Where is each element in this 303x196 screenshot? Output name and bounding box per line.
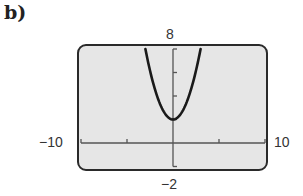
axes	[81, 49, 265, 167]
plot-area	[0, 0, 303, 196]
